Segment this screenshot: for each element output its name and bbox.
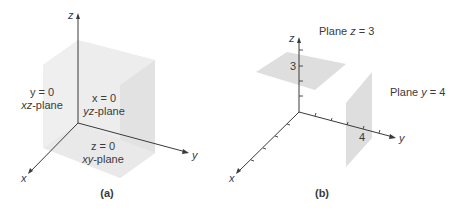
y-axis-label: y xyxy=(191,149,199,161)
x-axis-label: x xyxy=(228,172,235,184)
plane-y4 xyxy=(346,72,372,167)
z-tick-label-3: 3 xyxy=(290,60,296,72)
figure-b: z y x 3 4 Plane z = 3 Plane y = 4 (b) xyxy=(228,25,445,199)
z-axis-label: z xyxy=(288,32,295,44)
xy-plane-name: xy-plane xyxy=(81,153,124,165)
figure-canvas: z y x y = 0 xz-plane x = 0 yz-plane z = … xyxy=(0,0,452,223)
plane-z3 xyxy=(256,52,346,90)
figure-b-caption: (b) xyxy=(315,187,329,199)
y-tick-label-4: 4 xyxy=(359,131,365,143)
xz-plane-name: xz-plane xyxy=(20,99,63,111)
z-axis-label: z xyxy=(67,9,74,21)
xy-plane-equation: z = 0 xyxy=(91,140,115,152)
x-axis-arrow-icon xyxy=(236,168,241,174)
y-axis-arrow-icon xyxy=(389,134,396,139)
y-axis-arrow-icon xyxy=(182,149,189,154)
z-axis-arrow-icon xyxy=(297,37,301,43)
yz-plane-name: yz-plane xyxy=(82,105,125,117)
x-axis xyxy=(238,112,299,172)
figure-a: z y x y = 0 xz-plane x = 0 yz-plane z = … xyxy=(20,9,199,199)
yz-plane-equation: x = 0 xyxy=(92,92,116,104)
xz-plane-equation: y = 0 xyxy=(30,86,54,98)
figure-a-caption: (a) xyxy=(100,187,114,199)
plane-z3-label: Plane z = 3 xyxy=(319,25,374,37)
x-axis-ticks xyxy=(251,124,290,161)
x-axis-label: x xyxy=(20,172,27,184)
z-axis-arrow-icon xyxy=(76,13,80,19)
plane-y4-label: Plane y = 4 xyxy=(390,86,445,98)
x-axis-arrow-icon xyxy=(28,168,33,174)
y-axis-label: y xyxy=(398,132,406,144)
